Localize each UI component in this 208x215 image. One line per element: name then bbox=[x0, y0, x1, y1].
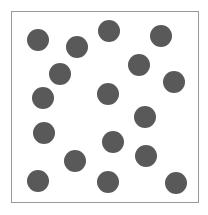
dot-9 bbox=[97, 83, 119, 105]
dot-11 bbox=[33, 122, 55, 144]
dot-10 bbox=[134, 106, 156, 128]
dot-16 bbox=[97, 171, 119, 193]
dot-5 bbox=[49, 63, 71, 85]
dot-4 bbox=[150, 25, 172, 47]
dot-8 bbox=[32, 87, 54, 109]
dot-13 bbox=[135, 145, 157, 167]
dot-2 bbox=[66, 36, 88, 58]
dot-12 bbox=[102, 131, 124, 153]
dot-6 bbox=[128, 54, 150, 76]
dot-7 bbox=[163, 71, 185, 93]
dot-3 bbox=[98, 20, 120, 42]
dot-17 bbox=[165, 172, 187, 194]
dot-15 bbox=[27, 170, 49, 192]
dot-1 bbox=[27, 29, 49, 51]
dot-14 bbox=[64, 150, 86, 172]
